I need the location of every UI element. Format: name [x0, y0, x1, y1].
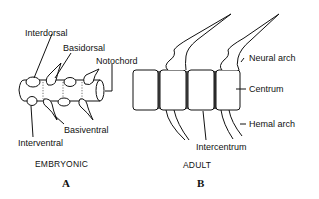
label-hemal-arch: Hemal arch	[249, 119, 295, 129]
label-interdorsal: Interdorsal	[25, 28, 68, 38]
panel-letter-a: A	[62, 177, 70, 189]
label-basiventral: Basiventral	[64, 125, 109, 135]
caption-embryonic: EMBRYONIC	[35, 159, 88, 169]
label-notochord: Notochord	[96, 56, 138, 66]
caption-adult: ADULT	[183, 160, 211, 170]
label-intercentrum: Intercentrum	[196, 142, 247, 152]
label-interventral: Interventral	[18, 138, 63, 148]
label-neural-arch: Neural arch	[249, 53, 296, 63]
label-centrum: Centrum	[249, 84, 284, 94]
panel-letter-b: B	[197, 177, 204, 189]
label-basidorsal: Basidorsal	[63, 43, 105, 53]
